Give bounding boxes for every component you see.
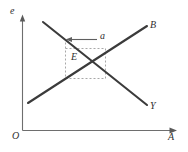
curve-y-line	[43, 22, 147, 105]
equilibrium-point-label: E	[71, 52, 77, 62]
x-axis-label: A	[168, 132, 174, 142]
y-axis-label: e	[10, 6, 14, 16]
curve-b-label: B	[150, 20, 156, 30]
diagram-canvas	[0, 0, 188, 152]
origin-label: O	[12, 131, 19, 141]
economics-diagram-figure: e A O B Y a E	[0, 0, 188, 152]
annotation-a-label: a	[100, 31, 105, 41]
y-axis-arrowhead	[20, 15, 25, 22]
curve-y-label: Y	[150, 101, 156, 111]
